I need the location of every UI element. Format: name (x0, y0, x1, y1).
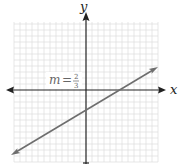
slope-denominator: 3 (74, 82, 78, 90)
slope-annotation: m = 2 3 (46, 72, 82, 90)
coordinate-plane: y x m = 2 3 (0, 0, 181, 164)
line-lower-arrow-icon (11, 148, 20, 155)
slope-variable: m (49, 73, 60, 87)
x-axis-left-arrow-icon (6, 87, 14, 94)
y-axis-label: y (79, 0, 88, 14)
slope-equals: = (62, 73, 72, 87)
line-upper-arrow-icon (149, 67, 158, 74)
plotted-line (11, 67, 158, 155)
slope-numerator: 2 (74, 73, 78, 81)
x-axis-right-arrow-icon (158, 87, 166, 94)
x-axis-label: x (170, 82, 178, 97)
y-axis (83, 12, 90, 164)
